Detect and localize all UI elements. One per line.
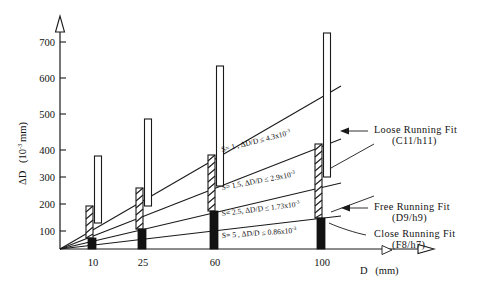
annotation-s15-exp: -3 xyxy=(290,168,296,175)
legend-free-line1: Free Running Fit xyxy=(374,201,450,212)
annotation-s15: S= 1.5, ΔD/D ≤ 2.9x10-3 xyxy=(221,168,297,192)
x-tick-label-25: 25 xyxy=(138,257,149,268)
solid-bar-10 xyxy=(88,238,96,249)
svg-text:S= 1 , ΔD/D ≤ 4.3x10-3: S= 1 , ΔD/D ≤ 4.3x10-3 xyxy=(220,127,292,154)
outline-bar-100 xyxy=(324,33,331,177)
outline-bar-60 xyxy=(217,66,224,186)
bar-group-10 xyxy=(86,156,102,249)
legend-callout-free: Free Running Fit (D9/h9) xyxy=(374,201,450,223)
svg-text:ΔD (10-3mm): ΔD (10-3mm) xyxy=(16,122,29,185)
bar-group-100 xyxy=(315,33,331,249)
y-tick-label-400: 400 xyxy=(39,145,55,156)
legend-callout-loose: Loose Running Fit (C11/h11) xyxy=(374,124,457,146)
x-ticks xyxy=(93,244,322,249)
legend-close-line1: Close Running Fit xyxy=(374,228,456,239)
outline-bar-25 xyxy=(145,119,152,206)
y-axis-title-symbol: ΔD xyxy=(17,170,28,185)
y-axis-title-unit-base: (10 xyxy=(17,149,29,163)
y-tick-label-200: 200 xyxy=(39,199,55,210)
callout-leader-c11h11 xyxy=(331,144,374,168)
x-tick-label-100: 100 xyxy=(314,257,330,268)
loose-arrow-icon xyxy=(340,128,349,135)
y-tick-label-500: 500 xyxy=(39,109,55,120)
callout-leader-free xyxy=(341,205,368,212)
y-tick-label-600: 600 xyxy=(39,73,55,84)
callout-leader-close xyxy=(329,223,366,235)
y-ticks xyxy=(60,42,66,231)
legend-close-line2: (F8/h7) xyxy=(392,239,456,250)
y-tick-label-300: 300 xyxy=(39,172,55,183)
x-axis-title-unit: (mm) xyxy=(375,265,399,277)
callout-leader-d9h9 xyxy=(331,196,374,212)
bar-group-60 xyxy=(208,66,224,249)
y-axis-title: ΔD (10-3mm) xyxy=(16,122,29,185)
svg-text:S= 5 , ΔD/D ≤ 0.86x10-3: S= 5 , ΔD/D ≤ 0.86x10-3 xyxy=(221,225,297,240)
x-axis-title: D (mm) xyxy=(360,265,399,277)
y-axis-title-unit-tail: mm) xyxy=(17,122,29,142)
fit-tolerance-chart: 700 600 500 400 300 200 100 ΔD (10-3mm) … xyxy=(0,0,482,284)
annotation-s1-exp: -3 xyxy=(285,127,291,134)
y-axis-group xyxy=(56,16,65,249)
annotation-s5-exp: -3 xyxy=(292,225,297,231)
annotation-s5-text: S= 5 , ΔD/D ≤ 0.86x10 xyxy=(222,226,293,240)
svg-text:S= 1.5, ΔD/D ≤ 2.9x10-3: S= 1.5, ΔD/D ≤ 2.9x10-3 xyxy=(221,168,297,192)
legend-loose-line2: (C11/h11) xyxy=(392,135,457,146)
y-axis-title-exponent: -3 xyxy=(16,144,23,149)
legend-callout-close: Close Running Fit (F8/h7) xyxy=(374,228,456,250)
annotation-s1-text: S= 1 , ΔD/D ≤ 4.3x10 xyxy=(220,129,287,154)
bar-group-25 xyxy=(136,119,152,249)
y-tick-label-700: 700 xyxy=(39,37,55,48)
solid-bar-60 xyxy=(210,211,218,249)
annotation-s5: S= 5 , ΔD/D ≤ 0.86x10-3 xyxy=(221,225,297,240)
y-tick-label-100: 100 xyxy=(39,226,55,237)
x-axis-title-symbol: D xyxy=(360,265,368,276)
hatch-bar-100 xyxy=(315,144,322,218)
fit-line-free-s25 xyxy=(60,183,341,249)
legend-free-line2: (D9/h9) xyxy=(392,212,450,223)
x-tick-label-60: 60 xyxy=(210,257,221,268)
solid-bar-25 xyxy=(138,229,146,249)
outline-bar-10 xyxy=(95,156,102,223)
legend-loose-line1: Loose Running Fit xyxy=(374,124,457,135)
annotation-s15-text: S= 1.5, ΔD/D ≤ 2.9x10 xyxy=(221,170,292,192)
callout-leader-loose xyxy=(340,128,368,135)
y-axis-arrowhead xyxy=(56,16,65,32)
solid-bar-100 xyxy=(317,218,325,249)
x-tick-label-10: 10 xyxy=(88,257,99,268)
fit-line-loose-s1 xyxy=(60,86,341,249)
annotation-s25-exp: -3 xyxy=(295,198,300,205)
annotation-s1: S= 1 , ΔD/D ≤ 4.3x10-3 xyxy=(220,127,292,154)
hatch-bar-25 xyxy=(136,188,143,229)
